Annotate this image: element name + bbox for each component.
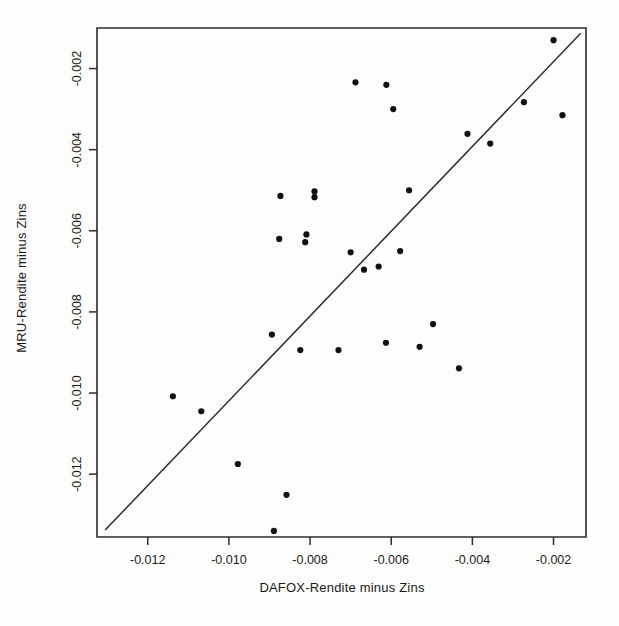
x-axis-title: DAFOX-Rendite minus Zins — [259, 580, 424, 595]
data-point — [269, 332, 275, 338]
data-point — [198, 408, 204, 414]
data-point — [383, 340, 389, 346]
data-point — [311, 188, 317, 194]
plot-canvas: -0.012-0.010-0.008-0.006-0.004-0.002 -0.… — [0, 0, 619, 626]
data-point — [521, 99, 527, 105]
data-point — [406, 187, 412, 193]
identity-reference-line — [105, 33, 581, 530]
data-point — [390, 106, 396, 112]
data-point — [417, 344, 423, 350]
scatter-plot-figure: -0.012-0.010-0.008-0.006-0.004-0.002 -0.… — [0, 0, 619, 626]
y-axis-tick-labels: -0.002-0.004-0.006-0.008-0.010-0.012 — [70, 51, 84, 492]
data-point — [311, 194, 317, 200]
x-tick-label: -0.002 — [536, 553, 571, 567]
x-tick-label: -0.010 — [211, 553, 246, 567]
data-point — [348, 249, 354, 255]
x-tick-label: -0.008 — [292, 553, 327, 567]
data-point — [487, 140, 493, 146]
data-point — [397, 248, 403, 254]
data-point — [430, 321, 436, 327]
y-axis-title: MRU-Rendite minus Zins — [14, 203, 29, 353]
y-tick-label: -0.002 — [70, 51, 84, 86]
data-point — [383, 82, 389, 88]
data-point — [303, 231, 309, 237]
y-tick-label: -0.008 — [70, 294, 84, 329]
y-axis-ticks — [89, 69, 97, 475]
reference-line — [105, 33, 581, 530]
x-axis-ticks — [148, 537, 554, 545]
data-point — [271, 528, 277, 534]
data-point — [559, 112, 565, 118]
x-tick-label: -0.006 — [373, 553, 408, 567]
y-tick-label: -0.012 — [70, 456, 84, 491]
y-tick-label: -0.010 — [70, 375, 84, 410]
data-point — [277, 193, 283, 199]
data-point — [335, 347, 341, 353]
data-point — [456, 365, 462, 371]
y-tick-label: -0.006 — [70, 213, 84, 248]
data-point — [170, 393, 176, 399]
data-point — [283, 492, 289, 498]
x-tick-label: -0.012 — [130, 553, 165, 567]
y-tick-label: -0.004 — [70, 132, 84, 167]
data-point — [297, 347, 303, 353]
data-point — [361, 267, 367, 273]
data-point — [302, 239, 308, 245]
data-point — [352, 79, 358, 85]
x-tick-label: -0.004 — [455, 553, 490, 567]
data-point — [464, 131, 470, 137]
data-point — [376, 263, 382, 269]
data-point — [550, 37, 556, 43]
data-point — [235, 461, 241, 467]
data-point — [276, 236, 282, 242]
x-axis-tick-labels: -0.012-0.010-0.008-0.006-0.004-0.002 — [130, 553, 571, 567]
